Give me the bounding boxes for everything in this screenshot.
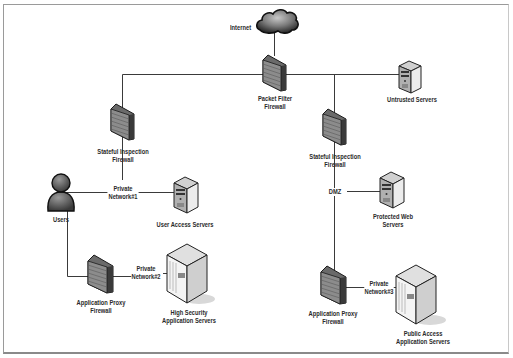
protected-web-servers-node[interactable] [378,171,406,213]
cloud-icon [254,6,300,36]
firewall-icon [110,103,136,141]
firewall-icon [262,54,288,92]
firewall-icon [87,254,115,294]
high-security-app-servers-node[interactable] [165,243,217,309]
app-proxy-firewall-1-node[interactable] [87,254,115,298]
untrusted-servers-node[interactable] [397,60,423,98]
protected-web-servers-label: Protected Web Servers [371,213,415,229]
high-security-app-servers-label: High Security Application Servers [155,309,222,325]
untrusted-servers-label: Untrusted Servers [387,96,438,104]
stateful-firewall-1-label: Stateful Inspection Firewall [96,148,150,164]
user-access-servers-label: User Access Servers [156,221,213,229]
server-rack-icon [165,243,217,305]
server-icon [172,176,200,214]
server-icon [378,171,406,209]
stateful-firewall-1-node[interactable] [110,103,136,145]
firewall-icon [322,108,348,146]
public-access-app-servers-label: Public Access Application Servers [389,330,456,346]
users-label: Users [52,216,70,224]
app-proxy-firewall-2-label: Application Proxy Firewall [308,310,359,326]
stateful-firewall-2-node[interactable] [322,108,348,150]
firewall-icon [320,265,348,305]
user-icon [45,172,77,212]
private-network-2-label: Private Network#2 [131,265,161,281]
users-node[interactable] [45,172,77,216]
server-icon [397,60,423,94]
user-access-servers-node[interactable] [172,176,200,218]
packet-filter-firewall-label: Packet Filter Firewall [253,95,297,111]
internet-node[interactable] [254,6,300,40]
server-rack-icon [394,264,448,326]
app-proxy-firewall-1-label: Application Proxy Firewall [76,299,127,315]
private-network-1-label: Private Network#1 [107,185,138,201]
public-access-app-servers-node[interactable] [394,264,448,330]
app-proxy-firewall-2-node[interactable] [320,265,348,309]
packet-filter-firewall-node[interactable] [262,54,288,96]
private-network-3-label: Private Network#3 [364,280,394,296]
internet-label: Internet [230,24,251,32]
dmz-label: DMZ [328,188,341,196]
stateful-firewall-2-label: Stateful Inspection Firewall [308,153,362,169]
